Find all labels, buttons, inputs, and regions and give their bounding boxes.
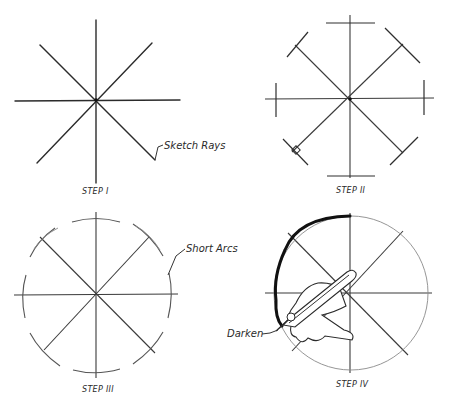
darken-annotation: Darken (227, 328, 263, 339)
step-4-label: STEP IV (336, 380, 369, 389)
short-arcs-annotation: Short Arcs (186, 243, 238, 254)
step-2-label: STEP II (336, 186, 366, 195)
panel-step-2: STEP II (265, 15, 434, 195)
circle-sketching-figure: Sketch Rays STEP I STEP II (0, 0, 450, 400)
short-arcs-leader (168, 249, 185, 275)
sketch-rays (265, 213, 432, 373)
sketch-rays-leader (155, 145, 163, 160)
panel-step-1: Sketch Rays STEP I (15, 20, 225, 196)
hand-with-pencil-icon (276, 270, 356, 342)
panel-step-4: Darken STEP IV (227, 213, 432, 389)
step-3-label: STEP III (82, 385, 114, 394)
step-1-label: STEP I (82, 187, 109, 196)
sketch-rays (14, 212, 178, 378)
sketch-rays-annotation: Sketch Rays (164, 140, 225, 151)
panel-step-3: Short Arcs STEP III (14, 212, 238, 394)
darken-leader (262, 330, 278, 334)
sketch-rays (265, 15, 434, 178)
